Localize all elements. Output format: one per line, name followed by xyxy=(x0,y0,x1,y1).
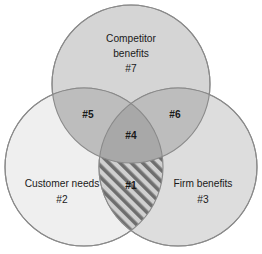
venn-diagram-canvas: Competitor benefits #7 Customer needs #2… xyxy=(0,0,262,254)
label-competitor-title-line2: benefits xyxy=(113,48,149,59)
venn-diagram: Competitor benefits #7 Customer needs #2… xyxy=(0,0,262,254)
label-customer-title-line1: Customer needs xyxy=(25,178,100,189)
label-firm-title-line1: Firm benefits xyxy=(174,178,233,189)
label-region-4-code: #4 xyxy=(125,130,137,141)
label-competitor-title-line1: Competitor xyxy=(106,33,156,44)
label-customer-code: #2 xyxy=(56,194,68,205)
label-region-6-code: #6 xyxy=(169,109,181,120)
label-region-5-code: #5 xyxy=(82,109,94,120)
label-competitor-code: #7 xyxy=(125,63,137,74)
label-region-1-code: #1 xyxy=(125,180,137,191)
label-firm-code: #3 xyxy=(197,194,209,205)
